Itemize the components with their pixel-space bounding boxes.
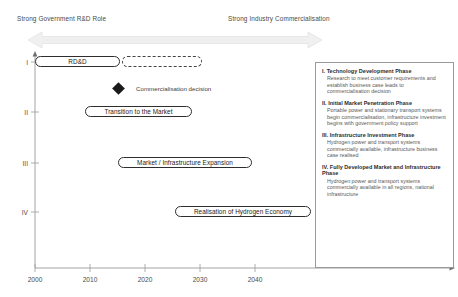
legend-item-body: Research to meet customer requirements a… xyxy=(322,75,447,95)
legend-item-body: Portable power and stationary transport … xyxy=(322,107,447,127)
x-tick-label: 2000 xyxy=(28,276,43,283)
legend-item-title: I. Technology Development Phase xyxy=(322,68,447,75)
y-tick-label: I xyxy=(12,59,28,66)
legend-item-phase-ii: II. Initial Market Penetration Phase Por… xyxy=(322,100,447,127)
phase-bar-realisation-hydrogen-economy: Realisation of Hydrogen Economy xyxy=(175,206,311,217)
legend-item-phase-iii: III. Infrastructure Investment Phase Hyd… xyxy=(322,132,447,159)
legend-item-phase-iv: IV. Fully Developed Market and Infrastru… xyxy=(322,164,447,197)
phase-legend-panel: I. Technology Development Phase Research… xyxy=(315,62,454,268)
diagram-canvas: Strong Government R&D Role Strong Indust… xyxy=(0,0,458,297)
legend-item-body: Hydrogen power and transport systems com… xyxy=(322,139,447,159)
phase-bar-transition-to-market: Transition to the Market xyxy=(85,106,192,117)
x-tick-label: 2020 xyxy=(138,276,153,283)
y-tick-label: II xyxy=(12,109,28,116)
legend-item-title: III. Infrastructure Investment Phase xyxy=(322,132,447,139)
legend-item-body: Hydrogen power and transport systems com… xyxy=(322,178,447,198)
phase-bar-rdd-continuation xyxy=(122,56,202,67)
y-tick-label: IV xyxy=(12,209,28,216)
legend-item-title: II. Initial Market Penetration Phase xyxy=(322,100,447,107)
commercialisation-decision-label: Commercialisation decision xyxy=(136,85,211,92)
legend-item-phase-i: I. Technology Development Phase Research… xyxy=(322,68,447,95)
legend-item-title: IV. Fully Developed Market and Infrastru… xyxy=(322,164,447,177)
phase-bar-market-infrastructure-expansion: Market / Infrastructure Expansion xyxy=(118,157,252,168)
y-tick-label: III xyxy=(12,160,28,167)
x-tick-label: 2030 xyxy=(193,276,208,283)
x-tick-label: 2040 xyxy=(248,276,263,283)
x-tick-label: 2010 xyxy=(83,276,98,283)
phase-bar-rdd: RD&D xyxy=(35,56,120,67)
